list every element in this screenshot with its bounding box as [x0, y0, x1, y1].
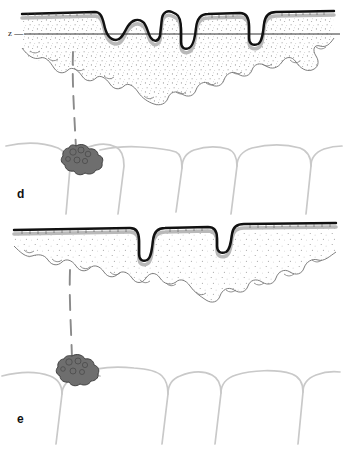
teeth-outlines-d — [6, 143, 342, 214]
reference-level-label: z — — [8, 28, 23, 38]
tumour-cell-cluster-e — [56, 355, 99, 386]
figure-canvas — [0, 0, 343, 450]
panel-label-d: d — [17, 187, 24, 201]
reference-leader-dash: — — [14, 28, 23, 38]
panel-label-e: e — [17, 412, 24, 426]
tumour-cell-cluster-d — [61, 145, 103, 175]
teeth-outlines-e — [2, 367, 340, 444]
connective-tissue-e — [14, 225, 336, 302]
migration-path-e — [70, 270, 72, 358]
panel-e-graphics — [2, 223, 340, 444]
figure-container: z — d e — [0, 0, 343, 450]
panel-d-graphics — [6, 11, 342, 214]
